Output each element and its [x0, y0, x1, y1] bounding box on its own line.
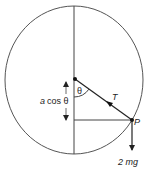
height-label-a: a — [40, 96, 45, 106]
pivot-dot — [73, 77, 77, 81]
point-p-label: P — [134, 117, 140, 127]
weight-label: 2 mg — [117, 157, 138, 167]
theta-label: θ — [77, 86, 82, 96]
circle-pendulum-diagram: θ T P 2 mg a cos θ — [0, 0, 147, 172]
tension-label: T — [112, 92, 119, 102]
string-line — [75, 79, 132, 120]
diagram-canvas: θ T P 2 mg a cos θ — [0, 0, 147, 172]
height-label-cos: cos θ — [47, 96, 69, 106]
